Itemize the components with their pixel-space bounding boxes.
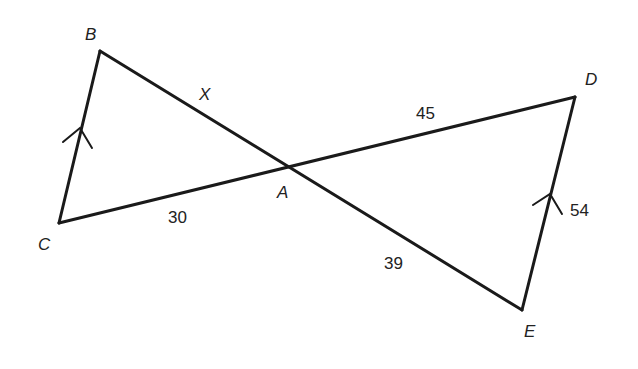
side-label-ad: 45	[416, 104, 435, 123]
side-label-ca: 30	[168, 208, 187, 227]
segment-be	[100, 51, 522, 310]
side-label-de: 54	[570, 201, 589, 220]
segment-bc	[59, 51, 100, 223]
segment-cd	[59, 97, 575, 223]
vertex-label-a: A	[276, 183, 288, 202]
side-label-ba: X	[198, 85, 211, 104]
vertex-label-e: E	[524, 322, 536, 341]
side-label-ae: 39	[384, 254, 403, 273]
vertex-label-c: C	[38, 235, 51, 254]
vertex-label-b: B	[85, 25, 96, 44]
diagram-canvas: B C A D E X 45 30 39 54	[0, 0, 638, 369]
vertex-label-d: D	[585, 70, 597, 89]
segment-de	[522, 97, 575, 310]
